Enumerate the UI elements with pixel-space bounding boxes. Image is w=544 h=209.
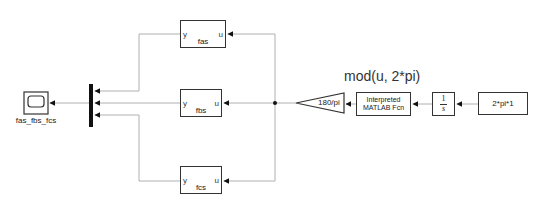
scope-label: fas_fbs_fcs [12, 116, 60, 125]
scope-screen-icon [28, 96, 44, 107]
constant-value: 2*pi*1 [479, 99, 527, 108]
integrator-numerator: 1 [433, 94, 454, 103]
fbs-block[interactable]: y u fbs [180, 89, 222, 117]
interp-line1: Interpreted [357, 96, 410, 103]
fbs-label: fbs [181, 106, 221, 115]
interp-fcn-expression: mod(u, 2*pi) [344, 68, 420, 84]
interp-line2: MATLAB Fcn [357, 104, 410, 111]
integrator-denominator: s [433, 104, 454, 113]
integrator-block[interactable]: 1 s [432, 92, 455, 116]
wire-fas-mux[interactable] [95, 34, 180, 91]
diagram-canvas [0, 0, 544, 209]
wire-fcs-mux[interactable] [95, 115, 180, 181]
fcs-block[interactable]: y u fcs [180, 166, 222, 194]
constant-block[interactable]: 2*pi*1 [478, 92, 528, 115]
branch-point [273, 101, 277, 105]
fas-block[interactable]: y u fas [180, 20, 226, 48]
fas-label: fas [181, 37, 225, 46]
mux-block[interactable] [89, 84, 93, 127]
interpreted-matlab-fcn-block[interactable]: Interpreted MATLAB Fcn [356, 92, 411, 116]
gain-value: 180/pi [318, 98, 340, 107]
fcs-label: fcs [181, 183, 221, 192]
